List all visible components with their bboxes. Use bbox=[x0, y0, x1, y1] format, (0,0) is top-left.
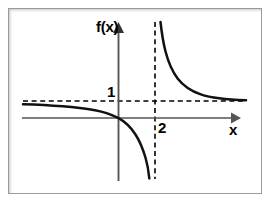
function-graph-figure: f(x) x 1 2 bbox=[0, 0, 272, 204]
x-axis-label: x bbox=[229, 122, 237, 137]
y-axis-label: f(x) bbox=[96, 19, 118, 34]
y-tick-label-1: 1 bbox=[107, 84, 115, 99]
x-tick-label-2: 2 bbox=[158, 120, 166, 135]
curve-right-branch bbox=[161, 22, 247, 100]
curve-left-branch bbox=[23, 104, 149, 178]
plot-canvas bbox=[0, 0, 272, 204]
